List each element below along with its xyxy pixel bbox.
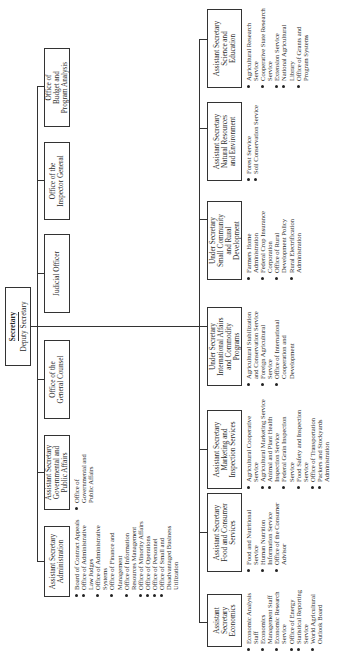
- subunit-item: Animal and Plant Health Inspection Servi…: [266, 399, 280, 489]
- staff-box-administration: Assistant Secretary Administration: [44, 526, 70, 597]
- subunit-item: Federal Grain Inspection Service: [280, 399, 294, 489]
- subunit-item: Office of Minority Affairs: [137, 519, 144, 597]
- subunit-item: Office of the Consumer Advisor: [273, 492, 287, 572]
- connector-stub: [199, 622, 207, 623]
- subunit-item: Economic Analysis Staff: [245, 583, 259, 651]
- staff-box-inspector-general: Office of the Inspector General: [44, 142, 70, 220]
- subunit-item: Office of Personnel: [151, 519, 158, 597]
- staff-box-judicial-officer: Judicial Officer: [44, 234, 70, 313]
- subunit-item: Soil Conservation Service: [252, 101, 259, 181]
- program-box-small-community-rural: Under Secretary Small Community and Rura…: [207, 201, 242, 280]
- subunit-item: Board of Contract Appeals: [73, 519, 80, 597]
- subunit-item: National Agricultural Library: [280, 6, 294, 88]
- subunit-item: Statistical Reporting Service: [295, 583, 309, 651]
- small-community-rural-subunits: Farmers Home Administration Federal Crop…: [245, 198, 302, 280]
- subunit-item: Office of Administrative Law Judges: [80, 519, 94, 597]
- natural-resources-subunits: Forest Service Soil Conservation Service: [245, 101, 259, 181]
- deputy-secretary-title: Deputy Secretary: [20, 301, 28, 351]
- subunit-item: Office of Transportation: [309, 399, 316, 489]
- staff-label: Assistant Secretary Administration: [49, 534, 65, 589]
- connector-stub: [199, 326, 207, 327]
- subunit-item: Economics Management Staff: [259, 583, 273, 651]
- subunit-item: Foreign Agricultural Service: [259, 306, 273, 386]
- subunit-item: Office of Administrative Systems: [94, 519, 108, 597]
- staff-box-budget-program-analysis: Office of Budget and Program Analysis: [44, 48, 70, 127]
- marketing-inspection-subunits: Agricultural Cooperative Service Agricul…: [245, 399, 330, 489]
- administration-subunits: Board of Contract Appeals Office of Admi…: [73, 519, 179, 597]
- subunit-item: Office of Grants and Program Systems: [295, 6, 309, 88]
- connector-stub: [199, 532, 207, 533]
- program-label: Assistant Secretary Marketing and Inspec…: [213, 421, 237, 477]
- program-box-food-consumer: Assistant Secretary Food and Consumer Se…: [207, 493, 242, 572]
- subunit-item: Office of Rural Development Policy: [273, 198, 287, 280]
- subunit-item: Agricultural Stabilization and Conservat…: [245, 306, 259, 386]
- subunit-item: Human Nutrition Information Service: [259, 492, 273, 572]
- subunit-item: Food Safety and Inspection Service: [295, 399, 309, 489]
- subunit-item: Food and Nutritional Service: [245, 492, 259, 572]
- subunit-item: Federal Crop Insurance Corporation: [259, 198, 273, 280]
- connector-stub: [37, 86, 44, 87]
- program-label: Assistant Secretary Science and Educatio…: [213, 21, 237, 76]
- subunit-item: Cooperative State Research Service: [259, 6, 273, 88]
- connector-stub: [199, 128, 207, 129]
- staff-box-governmental-public-affairs: Assistant Secretary Governmental and Pub…: [44, 435, 70, 510]
- subunit-item: Office of Governmental and Public Affair…: [73, 448, 94, 510]
- subunit-item: Economic Research Service: [273, 583, 287, 651]
- program-label: Under Secretary International Affairs an…: [209, 317, 241, 375]
- subunit-item: Packers and Stockyards Administration: [316, 399, 330, 489]
- subunit-item: Office of Operations: [144, 519, 151, 597]
- program-label: Assistant Secretary Food and Consumer Se…: [213, 503, 237, 561]
- program-label: Assistant Secretary Natural Resources an…: [213, 114, 237, 169]
- connector-secretary-trunk: [31, 326, 199, 327]
- subunit-item: World Agricultural Outlook Board: [309, 583, 323, 651]
- subunit-item: Farmers Home Administration: [245, 198, 259, 280]
- science-education-subunits: Agricultural Research Service Cooperativ…: [245, 6, 309, 88]
- connector-stub: [37, 273, 44, 274]
- connector-staff-bar: [37, 87, 38, 562]
- subunit-item: Office of Energy: [288, 583, 295, 651]
- connector-stub: [37, 379, 44, 380]
- staff-label: Judicial Officer: [53, 251, 61, 296]
- staff-label: Office of the General Counsel: [49, 355, 65, 403]
- subunit-item: Office of Small and Disadvantaged Busine…: [158, 519, 179, 597]
- secretary-title: Secretary: [9, 312, 19, 341]
- staff-label: Office of the Inspector General: [49, 155, 65, 206]
- program-box-marketing-inspection: Assistant Secretary Marketing and Inspec…: [207, 410, 242, 489]
- subunit-item: Forest Service: [245, 101, 252, 181]
- international-commodity-subunits: Agricultural Stabilization and Conservat…: [245, 306, 295, 386]
- subunit-item: Rural Electrification Administration: [288, 198, 302, 280]
- staff-box-general-counsel: Office of the General Counsel: [44, 340, 70, 419]
- connector-stub: [37, 472, 44, 473]
- food-consumer-subunits: Food and Nutritional Service Human Nutri…: [245, 492, 288, 572]
- connector-stub: [37, 561, 44, 562]
- connector-stub: [199, 219, 207, 220]
- secretary-box: Secretary Deputy Secretary: [5, 287, 31, 366]
- subunit-item: Agricultural Research Service: [245, 6, 259, 88]
- org-chart: Secretary Deputy Secretary Assistant Sec…: [0, 0, 362, 657]
- subunit-item: Office of Information Resources Manageme…: [123, 519, 137, 597]
- governmental-affairs-subunits: Office of Governmental and Public Affair…: [73, 448, 94, 510]
- program-box-natural-resources: Assistant Secretary Natural Resources an…: [207, 102, 242, 181]
- program-box-science-education: Assistant Secretary Science and Educatio…: [207, 9, 242, 88]
- staff-label: Assistant Secretary Governmental and Pub…: [45, 445, 69, 500]
- staff-label: Office of Budget and Program Analysis: [45, 62, 69, 113]
- connector-stub: [199, 449, 207, 450]
- subunit-item: Agricultural Marketing Service: [259, 399, 266, 489]
- subunit-item: Office of International Cooperation and …: [273, 306, 294, 386]
- program-box-economics: Assistant Secretary Economics: [207, 594, 242, 647]
- program-box-international-commodity: Under Secretary International Affairs an…: [207, 307, 242, 386]
- subunit-item: Agricultural Cooperative Service: [245, 399, 259, 489]
- program-label: Assistant Secretary Economics: [213, 605, 237, 637]
- economics-subunits: Economic Analysis Staff Economics Manage…: [245, 583, 323, 651]
- program-label: Under Secretary Small Community and Rura…: [209, 214, 241, 267]
- subunit-item: Office of Finance and Management: [108, 519, 122, 597]
- connector-stub: [37, 180, 44, 181]
- connector-stub: [199, 39, 207, 40]
- subunit-item: Extension Service: [273, 6, 280, 88]
